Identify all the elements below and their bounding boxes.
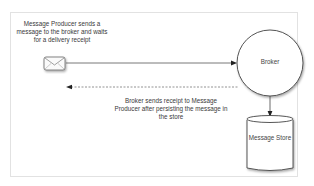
receipt-note: Broker sends receipt to Message Producer… [113,97,229,121]
receipt-arrow [66,85,239,89]
envelope-icon [44,57,65,70]
message-store-label: Message Store [247,133,293,142]
producer-note: Message Producer sends a message to the … [12,20,112,44]
send-arrow [66,61,237,66]
persist-arrow [268,96,273,117]
broker-label: Broker [240,58,300,65]
message-store-node [247,116,293,171]
